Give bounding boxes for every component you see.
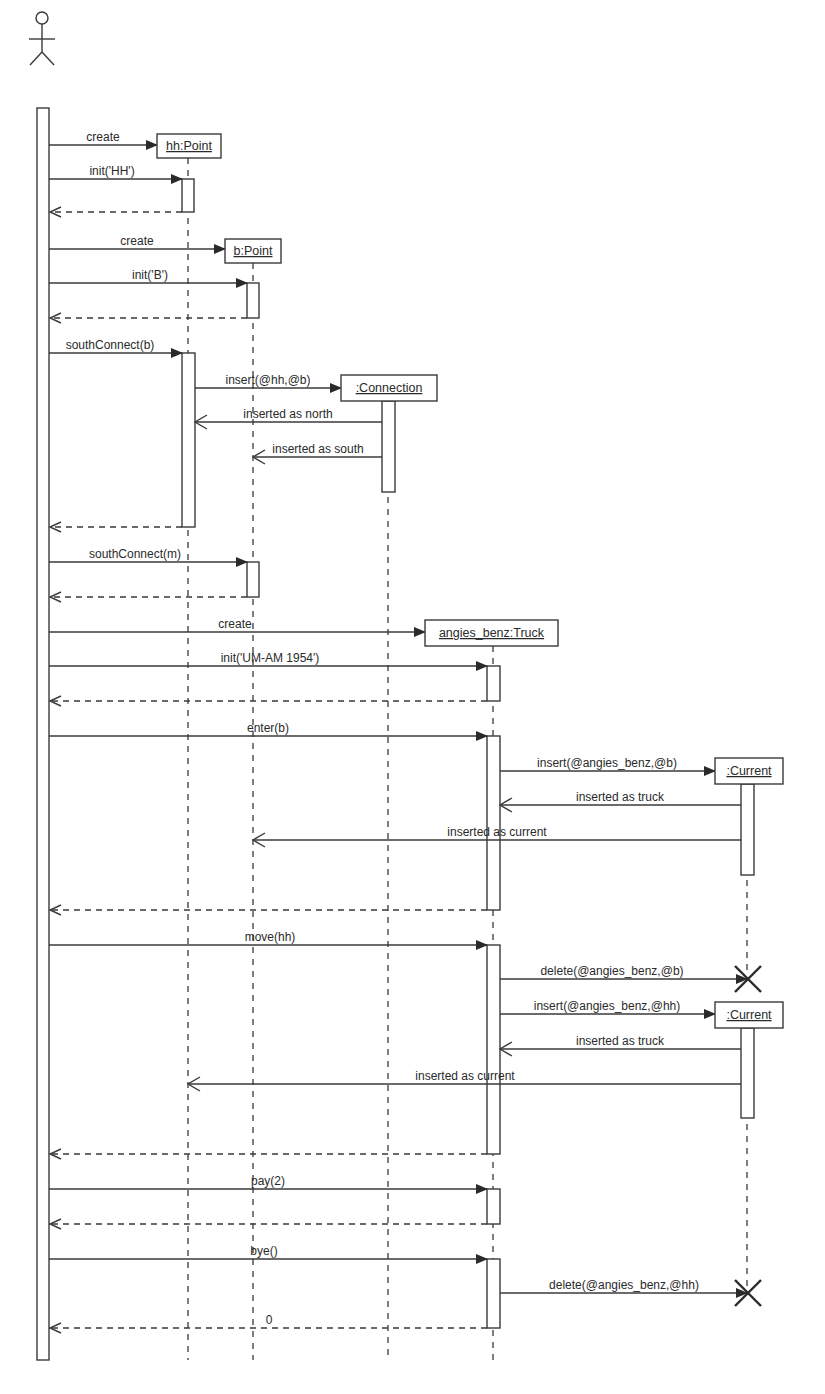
- message-reply: inserted as current: [188, 1069, 741, 1091]
- object-box-cur1: :Current: [715, 758, 783, 784]
- object-label: :Current: [726, 764, 772, 778]
- message-call: bye(): [49, 1244, 487, 1259]
- message-label: inserted as current: [447, 825, 547, 839]
- message-call: pay(2): [49, 1174, 487, 1189]
- message-label: inserted as south: [272, 442, 363, 456]
- message-label: inserted as truck: [576, 1034, 665, 1048]
- message-call: delete(@angies_benz,@b): [500, 964, 747, 979]
- message-call: southConnect(b): [49, 338, 182, 353]
- message-label: delete(@angies_benz,@b): [540, 964, 683, 978]
- message-call: move(hh): [49, 930, 487, 945]
- message-label: delete(@angies_benz,@hh): [549, 1278, 699, 1292]
- message-reply: inserted as south: [253, 442, 382, 464]
- activation-bar: [741, 1028, 754, 1118]
- message-label: 0: [266, 1313, 273, 1327]
- message-label: init('B'): [132, 268, 168, 282]
- message-return: [50, 905, 487, 915]
- message-call: init('HH'): [49, 164, 182, 179]
- activation-bar: [487, 945, 500, 1154]
- message-return: [50, 592, 247, 602]
- object-box-conn: :Connection: [341, 375, 437, 401]
- message-create: create: [49, 234, 225, 249]
- object-box-b: b:Point: [225, 239, 281, 263]
- object-label: hh:Point: [166, 139, 212, 153]
- message-return: 0: [50, 1313, 487, 1333]
- message-label: inserted as north: [243, 407, 332, 421]
- message-label: init('HH'): [89, 164, 134, 178]
- message-label: pay(2): [251, 1174, 285, 1188]
- message-label: insert(@angies_benz,@b): [537, 756, 677, 770]
- message-create: insert(@angies_benz,@hh): [500, 999, 715, 1014]
- message-label: init('UM-AM 1954'): [221, 651, 320, 665]
- activation-bar: [247, 283, 259, 318]
- message-label: bye(): [250, 1244, 277, 1258]
- message-label: inserted as current: [415, 1069, 515, 1083]
- actor-icon: [29, 12, 55, 65]
- message-call: enter(b): [49, 721, 487, 736]
- message-label: create: [120, 234, 154, 248]
- message-return: [50, 1149, 487, 1159]
- message-reply: inserted as north: [195, 407, 382, 429]
- object-box-truck: angies_benz:Truck: [425, 620, 558, 646]
- message-label: create: [218, 617, 252, 631]
- message-return: [50, 522, 182, 532]
- message-label: move(hh): [245, 930, 296, 944]
- message-call: delete(@angies_benz,@hh): [500, 1278, 747, 1293]
- message-call: southConnect(m): [49, 547, 247, 562]
- activation-bar: [487, 1189, 500, 1224]
- activation-bar: [247, 562, 259, 597]
- activation-bars: [37, 108, 754, 1360]
- message-create: insert(@hh,@b): [195, 373, 341, 388]
- object-label: :Connection: [356, 381, 423, 395]
- object-label: angies_benz:Truck: [439, 626, 545, 640]
- message-create: create: [49, 617, 425, 632]
- message-call: init('UM-AM 1954'): [49, 651, 487, 666]
- message-create: create: [49, 130, 157, 145]
- object-box-hh: hh:Point: [157, 134, 221, 158]
- activation-bar: [487, 1259, 500, 1328]
- message-reply: inserted as truck: [500, 1034, 741, 1056]
- activation-bar: [487, 736, 500, 910]
- message-reply: inserted as truck: [500, 790, 741, 812]
- message-return: [50, 207, 182, 217]
- object-label: :Current: [726, 1008, 772, 1022]
- message-label: southConnect(b): [66, 338, 155, 352]
- activation-bar: [741, 784, 754, 875]
- activation-bar: [37, 108, 49, 1360]
- object-label: b:Point: [234, 244, 273, 258]
- message-label: enter(b): [247, 721, 289, 735]
- message-return: [50, 696, 487, 706]
- message-label: create: [86, 130, 120, 144]
- message-return: [50, 313, 247, 323]
- message-label: inserted as truck: [576, 790, 665, 804]
- messages: createinit('HH')createinit('B')southConn…: [49, 130, 747, 1333]
- message-create: insert(@angies_benz,@b): [500, 756, 715, 771]
- message-label: southConnect(m): [89, 547, 181, 561]
- activation-bar: [382, 401, 395, 492]
- message-return: [50, 1219, 487, 1229]
- object-box-cur2: :Current: [715, 1002, 783, 1028]
- activation-bar: [487, 666, 500, 701]
- message-label: insert(@hh,@b): [225, 373, 310, 387]
- message-call: init('B'): [49, 268, 247, 283]
- activation-bar: [182, 179, 194, 212]
- activation-bar: [182, 353, 195, 527]
- message-label: insert(@angies_benz,@hh): [534, 999, 680, 1013]
- sequence-diagram: createinit('HH')createinit('B')southConn…: [0, 0, 825, 1394]
